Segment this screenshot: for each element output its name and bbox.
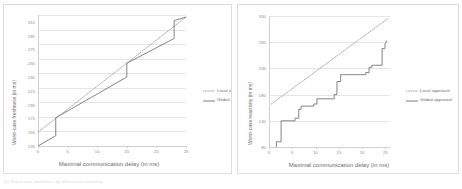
legend-label-global: Global approach bbox=[420, 98, 452, 102]
series-canvas-left bbox=[38, 15, 186, 146]
plot-area-right: 330 280 230 180 130 80 0 5 10 15 20 25 bbox=[269, 16, 390, 147]
y-tick-label: 215 bbox=[28, 88, 38, 93]
x-tick-label: 10 bbox=[313, 147, 318, 155]
legend-swatch-solid-icon bbox=[406, 99, 418, 103]
x-tick-label: 15 bbox=[124, 146, 129, 154]
x-tick-label: 0 bbox=[37, 146, 39, 154]
series-global-approach-left bbox=[38, 17, 186, 146]
chart-panel-freshness: Worst-case freshness (in ms) 315 295 275… bbox=[3, 4, 232, 174]
x-tick-label: 5 bbox=[66, 146, 68, 154]
y-tick-label: 255 bbox=[28, 61, 38, 66]
series-canvas-right bbox=[269, 16, 390, 147]
x-tick-label: 20 bbox=[360, 147, 365, 155]
y-tick-label: 295 bbox=[28, 33, 38, 38]
y-tick-label: 330 bbox=[259, 14, 269, 19]
legend-swatch-dotted-icon bbox=[203, 89, 215, 93]
y-tick-label: 275 bbox=[28, 47, 38, 52]
x-tick-label: 15 bbox=[336, 147, 341, 155]
legend-item-local[interactable]: Local approach bbox=[203, 89, 232, 93]
y-tick-label: 175 bbox=[28, 116, 38, 121]
x-tick-label: 5 bbox=[291, 147, 293, 155]
x-tick-label: 10 bbox=[95, 146, 100, 154]
x-tick-label: 25 bbox=[383, 147, 388, 155]
plot-area-left: 315 295 275 255 235 215 195 175 155 135 … bbox=[38, 15, 186, 146]
x-tick-label: 25 bbox=[184, 146, 189, 154]
y-axis-title-left: Worst-case freshness (in ms) bbox=[11, 80, 17, 145]
legend-swatch-dotted-icon bbox=[406, 89, 418, 93]
legend-item-local[interactable]: Local approach bbox=[406, 89, 452, 93]
x-axis-title-right: Maximal communication delay (in ms) bbox=[254, 162, 424, 168]
y-axis-title-right: Worst-case reactivity (in ms) bbox=[247, 82, 253, 145]
series-local-approach-right bbox=[271, 19, 387, 104]
legend-swatch-solid-icon bbox=[203, 99, 215, 103]
legend-item-global[interactable]: Global approach bbox=[406, 98, 452, 102]
y-tick-label: 130 bbox=[259, 118, 269, 123]
x-axis-right bbox=[269, 147, 390, 148]
legend-item-global[interactable]: Global approach bbox=[203, 98, 232, 102]
legend-left: Local approach Global approach bbox=[203, 89, 232, 108]
figure-caption-partial: (a) Worst-case freshness. (b) Worst-case… bbox=[0, 179, 462, 184]
figure-row: Worst-case freshness (in ms) 315 295 275… bbox=[0, 0, 462, 176]
series-global-approach-right bbox=[276, 41, 386, 147]
x-tick-label: 0 bbox=[268, 147, 270, 155]
chart-panel-reactivity: Worst-case reactivity (in ms) 330 280 23… bbox=[237, 4, 459, 174]
x-tick-label: 20 bbox=[154, 146, 159, 154]
legend-label-local: Local approach bbox=[420, 89, 450, 93]
y-tick-label: 235 bbox=[28, 75, 38, 80]
legend-label-global: Global approach bbox=[217, 98, 232, 102]
y-tick-label: 195 bbox=[28, 102, 38, 107]
y-tick-label: 280 bbox=[259, 40, 269, 45]
y-tick-label: 155 bbox=[28, 130, 38, 135]
legend-label-local: Local approach bbox=[217, 89, 232, 93]
x-axis-title-left: Maximal communication delay (in ms) bbox=[24, 161, 194, 167]
legend-right: Local approach Global approach bbox=[406, 89, 452, 108]
x-axis-left bbox=[38, 146, 186, 147]
y-tick-label: 230 bbox=[259, 66, 269, 71]
y-tick-label: 315 bbox=[28, 19, 38, 24]
y-tick-label: 180 bbox=[259, 92, 269, 97]
